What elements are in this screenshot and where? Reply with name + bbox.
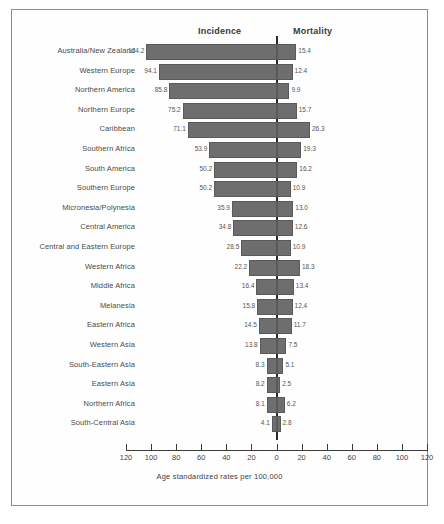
mortality-bar	[277, 260, 300, 276]
mortality-value: 16.2	[299, 165, 312, 172]
incidence-bar	[259, 318, 277, 334]
incidence-bar	[188, 122, 277, 138]
mortality-bar	[277, 377, 280, 393]
incidence-value: 71.1	[173, 125, 186, 132]
chart-row: Eastern Africa14.511.7	[12, 316, 427, 336]
chart-row: South-Central Asia4.12.8	[12, 414, 427, 434]
mortality-bar	[277, 358, 283, 374]
incidence-value: 94.1	[144, 67, 157, 74]
x-axis: 12010080604020020406080100120	[12, 442, 427, 468]
mortality-bar	[277, 201, 293, 217]
category-label: Micronesia/Polynesia	[62, 203, 135, 212]
chart-row: Micronesia/Polynesia35.913.0	[12, 199, 427, 219]
mortality-value: 13.0	[295, 204, 308, 211]
chart-row: Western Africa22.218.3	[12, 258, 427, 278]
incidence-bar	[214, 162, 277, 178]
axis-tick	[201, 444, 202, 451]
chart-row: Middle Africa16.413.4	[12, 277, 427, 297]
mortality-value: 5.1	[285, 361, 294, 368]
incidence-value: 4.1	[261, 419, 270, 426]
category-label: Western Africa	[85, 262, 135, 271]
mortality-bar	[277, 338, 286, 354]
axis-tick	[151, 444, 152, 451]
category-label: Melanesia	[100, 301, 135, 310]
axis-tick-label: 60	[348, 453, 356, 462]
axis-tick	[352, 444, 353, 451]
incidence-value: 35.9	[217, 204, 230, 211]
mortality-column-title: Mortality	[293, 26, 332, 36]
x-axis-caption: Age standardized rates per 100,000	[12, 472, 427, 481]
incidence-column-title: Incidence	[198, 26, 241, 36]
category-label: Caribbean	[99, 124, 135, 133]
incidence-value: 104.2	[128, 47, 144, 54]
axis-tick-label: 20	[297, 453, 305, 462]
figure-frame: Incidence Mortality Australia/New Zealan…	[11, 9, 428, 506]
chart-row: Western Europe94.112.4	[12, 62, 427, 82]
category-label: Northern Africa	[83, 399, 135, 408]
mortality-value: 11.7	[294, 321, 306, 328]
incidence-bar	[183, 103, 277, 119]
incidence-value: 15.8	[243, 302, 256, 309]
axis-tick	[126, 444, 127, 451]
incidence-bar	[233, 220, 277, 236]
axis-tick	[226, 444, 227, 451]
category-label: Southern Africa	[82, 144, 135, 153]
axis-tick-label: 40	[322, 453, 330, 462]
category-label: Eastern Africa	[87, 320, 135, 329]
mortality-value: 15.7	[299, 106, 312, 113]
incidence-value: 13.8	[245, 341, 258, 348]
plot-rows: Australia/New Zealand104.215.4Western Eu…	[12, 42, 427, 438]
incidence-bar	[249, 260, 277, 276]
chart-row: Northern Europe75.215.7	[12, 101, 427, 121]
category-label: Northern Europe	[78, 105, 135, 114]
mortality-bar	[277, 181, 291, 197]
category-label: Australia/New Zealand	[57, 46, 135, 55]
incidence-bar	[267, 358, 277, 374]
mortality-value: 15.4	[298, 47, 311, 54]
mortality-bar	[277, 318, 292, 334]
chart-row: Northern America85.89.9	[12, 81, 427, 101]
incidence-bar	[257, 299, 277, 315]
mortality-value: 2.5	[282, 380, 291, 387]
mortality-value: 12.4	[295, 67, 308, 74]
mortality-value: 7.5	[288, 341, 297, 348]
category-label: Southern Europe	[77, 183, 135, 192]
axis-tick-label: 40	[222, 453, 230, 462]
chart-row: South America50.216.2	[12, 160, 427, 180]
axis-tick	[251, 444, 252, 451]
incidence-value: 22.2	[235, 263, 248, 270]
mortality-bar	[277, 279, 294, 295]
chart-area: Incidence Mortality Australia/New Zealan…	[12, 10, 427, 505]
axis-tick-label: 20	[247, 453, 255, 462]
incidence-bar	[241, 240, 277, 256]
incidence-bar	[214, 181, 277, 197]
chart-row: Southern Africa53.919.3	[12, 140, 427, 160]
axis-tick-label: 0	[274, 453, 278, 462]
incidence-value: 34.8	[219, 223, 232, 230]
incidence-value: 53.9	[195, 145, 208, 152]
chart-row: Western Asia13.87.5	[12, 336, 427, 356]
mortality-bar	[277, 83, 289, 99]
incidence-value: 50.2	[199, 165, 212, 172]
mortality-value: 26.3	[312, 125, 325, 132]
incidence-value: 8.2	[256, 380, 265, 387]
incidence-bar	[267, 397, 277, 413]
mortality-bar	[277, 416, 281, 432]
chart-row: Australia/New Zealand104.215.4	[12, 42, 427, 62]
mortality-bar	[277, 299, 293, 315]
mortality-bar	[277, 240, 291, 256]
incidence-value: 75.2	[168, 106, 181, 113]
incidence-bar	[209, 142, 277, 158]
incidence-bar	[146, 44, 277, 60]
mortality-bar	[277, 162, 297, 178]
incidence-bar	[260, 338, 277, 354]
incidence-bar	[159, 64, 277, 80]
mortality-value: 19.3	[303, 145, 316, 152]
category-label: Eastern Asia	[92, 379, 135, 388]
axis-tick-label: 100	[396, 453, 409, 462]
category-label: Central America	[80, 222, 135, 231]
axis-tick	[377, 444, 378, 451]
incidence-value: 85.8	[155, 86, 168, 93]
incidence-bar	[267, 377, 277, 393]
mortality-value: 12.6	[295, 223, 308, 230]
